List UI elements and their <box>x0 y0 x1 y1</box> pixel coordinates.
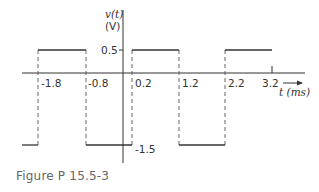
square-wave-chart: v(t) (V) 0.5 -1.5 -1.8 -0.8 0.2 1.2 2.2 … <box>0 0 319 192</box>
x-tick-label: -0.8 <box>88 77 109 89</box>
x-tick-label: -1.8 <box>41 77 62 89</box>
x-tick-label: 1.2 <box>182 77 199 89</box>
x-axis-label: t (ms) <box>279 86 310 98</box>
y-axis-label: v(t) <box>105 8 123 20</box>
y-tick-label-low: -1.5 <box>135 143 156 155</box>
y-tick-label-high: 0.5 <box>101 44 118 56</box>
waveform-levels <box>22 50 272 145</box>
x-tick-label: 3.2 <box>262 77 279 89</box>
x-tick-label: 2.2 <box>228 77 245 89</box>
transition-lines <box>38 50 225 145</box>
t-arrow-head <box>297 81 303 86</box>
y-axis-units: (V) <box>105 20 120 32</box>
x-tick-label: 0.2 <box>135 77 152 89</box>
figure-caption: Figure P 15.5-3 <box>16 169 109 183</box>
